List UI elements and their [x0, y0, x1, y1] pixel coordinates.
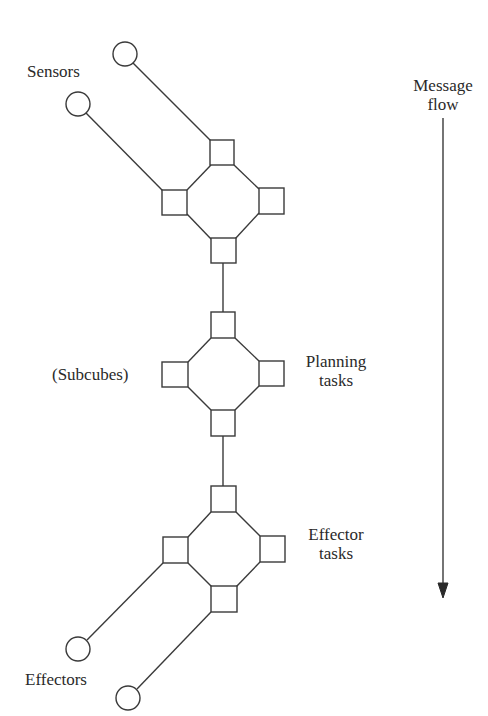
processor-node: [259, 188, 284, 214]
sensor-node-2: [66, 92, 90, 116]
effector-subcube: [163, 486, 285, 612]
effector-label-line1: Effector: [300, 525, 372, 544]
processor-node: [162, 362, 188, 387]
processor-node: [211, 410, 235, 436]
processor-node: [211, 586, 237, 612]
message-flow-label: Message flow: [405, 76, 481, 114]
processor-node: [163, 537, 188, 563]
message-flow-arrow: [438, 118, 448, 598]
effectors-label: Effectors: [25, 670, 87, 689]
sensors-label: Sensors: [27, 62, 80, 81]
subcubes-label: (Subcubes): [52, 365, 128, 384]
sensor-link-2: [86, 113, 163, 191]
arrow-head-icon: [438, 583, 448, 598]
effector-node-2: [116, 686, 140, 710]
processor-node: [211, 238, 236, 263]
sensor-node-1: [113, 42, 137, 66]
planning-label-line2: tasks: [300, 371, 372, 390]
processor-node: [162, 190, 187, 215]
processor-node: [211, 312, 235, 338]
effector-node-1: [66, 637, 90, 661]
planning-label-line1: Planning: [300, 352, 372, 371]
effector-link-1: [87, 563, 163, 640]
effector-tasks-label: Effector tasks: [300, 525, 372, 563]
planning-subcube: [162, 312, 284, 436]
processor-node: [210, 140, 234, 165]
message-flow-line2: flow: [405, 95, 481, 114]
processor-node: [259, 361, 284, 386]
sensor-link-1: [133, 63, 211, 141]
planning-tasks-label: Planning tasks: [300, 352, 372, 390]
subcube-message-flow-diagram: Sensors (Subcubes) Planning tasks Effect…: [0, 0, 488, 716]
sensor-subcube: [162, 140, 284, 263]
effector-label-line2: tasks: [300, 544, 372, 563]
message-flow-line1: Message: [405, 76, 481, 95]
processor-node: [211, 486, 236, 512]
effector-link-2: [137, 612, 211, 689]
processor-node: [260, 536, 285, 562]
